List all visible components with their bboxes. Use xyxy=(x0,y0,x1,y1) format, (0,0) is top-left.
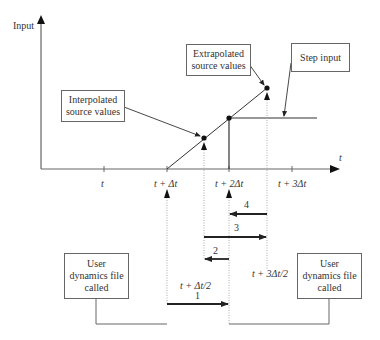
right-box-line2: dynamics file xyxy=(298,270,361,282)
x-axis xyxy=(41,165,340,173)
step-corner-point xyxy=(226,115,231,120)
interpolated-point xyxy=(201,135,206,140)
left-box-line3: called xyxy=(65,282,128,294)
tick-label-t-plus-dt: t + Δt xyxy=(154,178,177,190)
x-axis-label: t xyxy=(339,152,342,164)
tick-label-t: t xyxy=(101,178,104,190)
three-half-step-label: t + 3Δt/2 xyxy=(252,268,288,280)
extrapolated-up-arrow-icon xyxy=(264,92,270,100)
sequence-label-2: 2 xyxy=(213,245,218,257)
interpolated-callout: Interpolated source values xyxy=(61,90,125,122)
step-leader xyxy=(284,63,291,116)
interpolated-up-arrow-icon xyxy=(201,142,207,150)
sequence-label-4: 4 xyxy=(244,199,249,211)
tick-label-t-plus-3dt: t + 3Δt xyxy=(278,178,306,190)
left-user-dynamics-box: User dynamics file called xyxy=(64,253,129,299)
extrapolated-callout-line1: Extrapolated xyxy=(187,48,250,60)
extrapolated-callout: Extrapolated source values xyxy=(186,44,251,76)
extrapolated-leader xyxy=(249,64,264,85)
ramp-line xyxy=(167,88,267,169)
extrapolated-point xyxy=(264,85,269,90)
interpolated-leader xyxy=(124,107,200,136)
y-axis xyxy=(37,15,45,169)
sequence-label-1: 1 xyxy=(195,290,200,302)
left-box-line2: dynamics file xyxy=(65,270,128,282)
left-box-connector xyxy=(96,298,167,324)
y-axis-label: Input xyxy=(13,20,34,32)
tick-label-t-plus-2dt: t + 2Δt xyxy=(215,178,243,190)
step-input-callout: Step input xyxy=(291,43,350,72)
t-plus-2dt-up-arrow-icon xyxy=(226,189,232,198)
sequence-label-3: 3 xyxy=(234,222,239,234)
left-box-line1: User xyxy=(65,258,128,270)
interpolated-callout-line1: Interpolated xyxy=(62,94,124,106)
extrapolated-callout-line2: source values xyxy=(187,60,250,72)
step-input-line xyxy=(229,118,317,169)
right-box-line3: called xyxy=(298,282,361,294)
right-box-connector xyxy=(229,298,329,324)
right-box-line1: User xyxy=(298,258,361,270)
right-user-dynamics-box: User dynamics file called xyxy=(297,253,362,299)
t-plus-dt-up-arrow-icon xyxy=(164,189,170,198)
interpolated-callout-line2: source values xyxy=(62,106,124,118)
